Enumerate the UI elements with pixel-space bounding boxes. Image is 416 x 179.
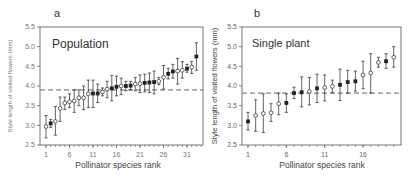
y-tick-label: 4.5 <box>227 63 237 70</box>
filled-square-marker <box>195 55 199 59</box>
filled-square-marker <box>338 83 342 87</box>
data-point <box>72 90 76 112</box>
data-point <box>171 64 175 78</box>
panel-a-x-axis-label: Pollinator species rank <box>75 160 161 170</box>
open-circle-marker <box>157 79 161 83</box>
filled-square-marker <box>148 81 152 85</box>
open-circle-marker <box>101 90 105 94</box>
filled-square-marker <box>315 86 319 90</box>
data-point <box>49 119 53 127</box>
filled-square-marker <box>171 70 175 74</box>
filled-square-marker <box>115 85 119 89</box>
data-point <box>392 47 396 67</box>
data-point <box>307 77 311 105</box>
open-circle-marker <box>392 55 396 59</box>
open-circle-marker <box>44 125 48 129</box>
data-point <box>284 94 288 112</box>
y-tick-label: 3.5 <box>227 102 237 109</box>
data-point <box>96 84 100 102</box>
data-point <box>124 81 128 90</box>
filled-square-marker <box>384 59 388 63</box>
open-circle-marker <box>105 87 109 91</box>
filled-square-marker <box>166 72 170 76</box>
data-point <box>361 61 365 89</box>
data-point <box>300 77 304 107</box>
filled-square-marker <box>124 84 128 88</box>
data-point <box>86 80 90 108</box>
data-point <box>68 94 72 108</box>
open-circle-marker <box>254 114 258 118</box>
x-tick-label: 1 <box>44 151 48 158</box>
filled-square-marker <box>110 86 114 90</box>
x-tick-label: 16 <box>113 151 121 158</box>
filled-square-marker <box>300 90 304 94</box>
data-point <box>180 62 184 79</box>
data-point <box>369 54 373 93</box>
data-point <box>77 90 81 106</box>
x-tick-label: 6 <box>68 151 72 158</box>
data-point <box>58 97 62 121</box>
open-circle-marker <box>77 96 81 100</box>
filled-square-marker <box>96 92 100 96</box>
y-tick-label: 4.5 <box>25 63 35 70</box>
x-tick-label: 11 <box>321 151 328 158</box>
filled-square-marker <box>246 120 250 124</box>
open-circle-marker <box>72 99 76 103</box>
data-point <box>315 74 319 102</box>
open-circle-marker <box>58 107 62 111</box>
open-circle-marker <box>269 111 273 115</box>
x-tick-label: 31 <box>183 151 191 158</box>
data-point <box>110 75 114 101</box>
data-point <box>190 62 194 74</box>
data-point <box>119 78 123 95</box>
open-circle-marker <box>162 75 166 79</box>
open-circle-marker <box>180 68 184 72</box>
filled-square-marker <box>292 91 296 95</box>
data-point <box>323 75 327 101</box>
filled-square-marker <box>185 67 189 71</box>
data-point <box>269 104 273 122</box>
x-tick-label: 26 <box>160 151 168 158</box>
data-point <box>54 106 58 135</box>
panel-b-title: Single plant <box>252 37 310 49</box>
open-circle-marker <box>330 84 334 88</box>
open-circle-marker <box>54 120 58 124</box>
x-tick-label: 6 <box>284 151 288 158</box>
data-point <box>246 112 250 130</box>
filled-square-marker <box>143 81 147 85</box>
data-point <box>129 81 133 90</box>
data-point <box>166 68 170 79</box>
open-circle-marker <box>63 101 67 105</box>
x-tick-label: 1 <box>246 151 250 158</box>
x-tick-label: 11 <box>89 151 96 158</box>
data-point <box>195 43 199 71</box>
data-point <box>346 70 350 93</box>
open-circle-marker <box>277 102 281 106</box>
open-circle-marker <box>82 96 86 100</box>
panel-b-y-axis-label: Style length of visited flowers (mm) <box>210 27 219 144</box>
y-tick-label: 3.0 <box>25 122 35 129</box>
data-point <box>376 57 380 67</box>
filled-square-marker <box>346 80 350 84</box>
data-point <box>133 77 137 90</box>
data-point <box>143 74 147 92</box>
data-point <box>292 87 296 98</box>
y-tick-label: 3.5 <box>25 102 35 109</box>
open-circle-marker <box>261 112 265 116</box>
data-point <box>353 71 357 91</box>
data-point <box>162 66 166 90</box>
x-tick-label: 16 <box>359 151 367 158</box>
data-point <box>157 77 161 84</box>
data-point <box>277 93 281 115</box>
filled-square-marker <box>284 101 288 105</box>
open-circle-marker <box>369 71 373 75</box>
y-tick-label: 2.5 <box>25 141 35 148</box>
open-circle-marker <box>361 73 365 77</box>
filled-square-marker <box>152 80 156 84</box>
filled-square-marker <box>49 121 53 125</box>
y-tick-label: 2.5 <box>227 141 237 148</box>
data-point <box>384 54 388 69</box>
data-point <box>152 71 156 94</box>
open-circle-marker <box>138 82 142 86</box>
y-tick-label: 3.0 <box>227 122 237 129</box>
